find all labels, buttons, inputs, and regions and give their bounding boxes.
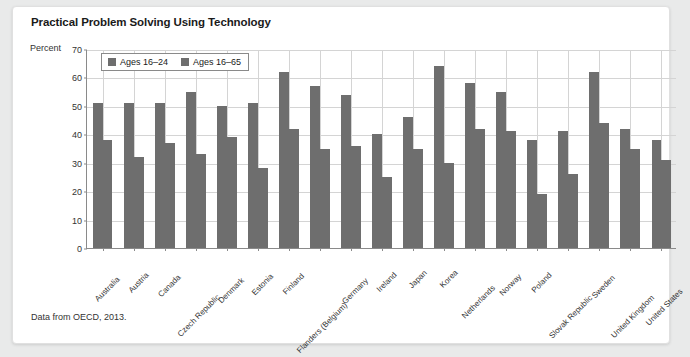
bar	[537, 194, 547, 248]
bar	[103, 140, 113, 248]
bar-group	[124, 50, 144, 248]
bar-group	[248, 50, 268, 248]
bar	[289, 129, 299, 248]
bar	[599, 123, 609, 248]
bar	[620, 129, 630, 248]
x-tick-label-wrapper: Poland	[548, 253, 572, 277]
x-tick-label: Germany	[340, 276, 370, 306]
y-tick-mark	[84, 50, 87, 51]
bar	[217, 106, 227, 248]
legend-label: Ages 16–65	[193, 57, 241, 67]
bar-group	[217, 50, 237, 248]
x-tick-label: Netherlands	[460, 284, 497, 321]
y-tick-label: 50	[72, 102, 82, 112]
y-tick-mark	[84, 135, 87, 136]
bar-group	[620, 50, 640, 248]
x-tick-mark	[661, 248, 662, 251]
x-tick-label-wrapper: Canada	[176, 253, 202, 279]
legend-swatch-icon	[181, 58, 189, 66]
x-tick-mark	[320, 248, 321, 251]
bar	[320, 149, 330, 249]
bar-group	[186, 50, 206, 248]
x-tick-label-wrapper: Japan	[422, 253, 444, 275]
x-tick-label: Finland	[281, 272, 306, 297]
y-tick-label: 0	[77, 244, 82, 254]
bar	[652, 140, 662, 248]
bar-group	[558, 50, 578, 248]
bar	[630, 149, 640, 249]
x-tick-mark	[165, 248, 166, 251]
bar	[496, 92, 506, 248]
x-tick-label: Czech Republic	[175, 293, 221, 339]
bar	[165, 143, 175, 248]
y-tick-mark	[84, 78, 87, 79]
x-tick-mark	[630, 248, 631, 251]
bar-group	[496, 50, 516, 248]
bar-group	[652, 50, 672, 248]
bar	[527, 140, 537, 248]
x-tick-label: Estonia	[250, 272, 275, 297]
bar	[568, 174, 578, 248]
bar	[403, 117, 413, 248]
source-note: Data from OECD, 2013.	[31, 312, 127, 322]
x-tick-mark	[227, 248, 228, 251]
y-tick-mark	[84, 106, 87, 107]
y-tick-label: 20	[72, 187, 82, 197]
y-tick-label: 70	[72, 45, 82, 55]
legend-item: Ages 16–65	[181, 57, 241, 67]
legend-item: Ages 16–24	[108, 57, 168, 67]
bar	[155, 103, 165, 248]
chart-card: Practical Problem Solving Using Technolo…	[12, 6, 670, 344]
x-tick-label: Korea	[438, 268, 459, 289]
x-tick-label: Flanders (Belgium)	[295, 301, 349, 355]
page-title: Practical Problem Solving Using Technolo…	[31, 16, 271, 28]
x-tick-label: Austria	[126, 271, 150, 295]
bar-group	[434, 50, 454, 248]
bar	[279, 72, 289, 248]
bar	[341, 95, 351, 249]
bar-group	[589, 50, 609, 248]
x-tick-mark	[537, 248, 538, 251]
x-tick-mark	[413, 248, 414, 251]
y-tick-label: 60	[72, 73, 82, 83]
bar	[351, 146, 361, 248]
bar-group	[279, 50, 299, 248]
x-tick-label: Australia	[93, 275, 121, 303]
x-tick-mark	[382, 248, 383, 251]
bar	[434, 66, 444, 248]
x-tick-label-wrapper: Finland	[300, 253, 325, 278]
x-tick-mark	[506, 248, 507, 251]
bar	[258, 168, 268, 248]
bar	[227, 137, 237, 248]
y-tick-mark	[84, 163, 87, 164]
y-tick-label: 30	[72, 159, 82, 169]
bar-group	[310, 50, 330, 248]
y-tick-mark	[84, 249, 87, 250]
x-tick-mark	[475, 248, 476, 251]
y-tick-mark	[84, 220, 87, 221]
bar-group	[93, 50, 113, 248]
bar	[310, 86, 320, 248]
legend-swatch-icon	[108, 58, 116, 66]
x-tick-mark	[103, 248, 104, 251]
x-tick-label-wrapper: Korea	[453, 253, 474, 274]
legend-label: Ages 16–24	[120, 57, 168, 67]
bar	[661, 160, 671, 248]
bar-group	[372, 50, 392, 248]
bar	[558, 131, 568, 248]
x-tick-mark	[444, 248, 445, 251]
x-tick-mark	[568, 248, 569, 251]
bar	[475, 129, 485, 248]
x-tick-label: Japan	[407, 268, 429, 290]
plot-area: Ages 16–24Ages 16–65 010203040506070Aust…	[86, 50, 676, 249]
x-tick-mark	[134, 248, 135, 251]
bar	[248, 103, 258, 248]
y-tick-label: 40	[72, 130, 82, 140]
bar-group	[155, 50, 175, 248]
x-tick-label: Poland	[530, 271, 554, 295]
bar	[134, 157, 144, 248]
x-tick-mark	[351, 248, 352, 251]
bar	[444, 163, 454, 248]
bar-group	[465, 50, 485, 248]
x-tick-mark	[289, 248, 290, 251]
